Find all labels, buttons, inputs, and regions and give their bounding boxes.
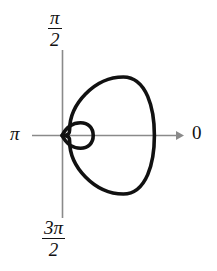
fraction-pi-over-2: π 2 <box>48 8 62 49</box>
fraction-numerator: π <box>48 8 62 29</box>
axis-label-pi-over-2: π 2 <box>48 8 62 49</box>
fraction-3pi-over-2: 3π 2 <box>42 218 65 259</box>
axis-arrowhead-icon <box>176 131 184 140</box>
horizontal-axis <box>32 131 184 140</box>
fraction-numerator: 3π <box>42 218 65 239</box>
axis-label-3pi-over-2: 3π 2 <box>42 218 65 259</box>
axis-label-zero: 0 <box>192 123 202 142</box>
polar-plot-canvas <box>0 0 217 271</box>
fraction-denominator: 2 <box>42 239 65 259</box>
axis-label-pi: π <box>10 124 20 143</box>
polar-plot-figure: π 2 3π 2 π 0 <box>0 0 217 271</box>
fraction-denominator: 2 <box>48 29 62 49</box>
